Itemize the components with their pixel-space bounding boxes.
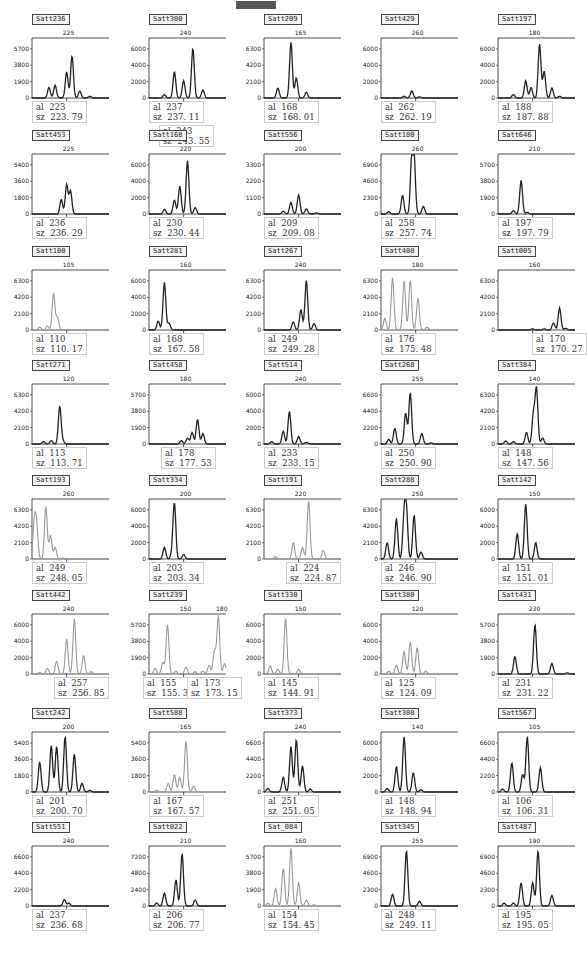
svg-text:4000: 4000 (363, 61, 378, 68)
svg-text:5700: 5700 (131, 391, 146, 398)
marker-panel: Satt2391501800190038005700al 155sz 155. … (121, 590, 231, 710)
allele-label: al 197sz 197. 79 (498, 217, 553, 239)
marker-panel: Satt2422000180036005400al 201sz 200. 70 (4, 708, 114, 828)
size-value: sz 124. 09 (385, 688, 432, 698)
size-value: sz 151. 01 (502, 573, 549, 583)
svg-text:0: 0 (25, 440, 29, 447)
svg-text:160: 160 (295, 837, 307, 844)
svg-text:240: 240 (295, 375, 307, 382)
trace-plot: 1800200040006000 (470, 24, 580, 112)
trace-line (381, 155, 458, 214)
svg-text:4000: 4000 (131, 293, 146, 300)
size-value: sz 206. 77 (153, 920, 200, 930)
size-value: sz 248. 05 (36, 573, 83, 583)
svg-text:6000: 6000 (363, 739, 378, 746)
svg-text:5700: 5700 (480, 621, 495, 628)
allele-value: al 236 (36, 218, 83, 228)
allele-label: al 201sz 200. 70 (32, 795, 87, 817)
svg-text:240: 240 (295, 261, 307, 268)
marker-panel: Satt1932600210042006300al 249sz 248. 05 (4, 475, 114, 595)
allele-label: al 178sz 177. 53 (161, 447, 216, 469)
allele-value: al 148 (385, 796, 432, 806)
svg-text:3300: 3300 (246, 161, 261, 168)
svg-text:2400: 2400 (131, 886, 146, 893)
svg-text:2100: 2100 (480, 424, 495, 431)
trace-plot: 2600210042006300 (4, 485, 114, 573)
allele-value: al 145 (268, 678, 315, 688)
svg-text:0: 0 (374, 670, 378, 677)
trace-line (381, 394, 458, 444)
allele-label: al 237sz 237. 11 (149, 101, 204, 123)
svg-text:2100: 2100 (14, 424, 29, 431)
allele-value: al 173 (191, 678, 238, 688)
svg-text:3800: 3800 (246, 869, 261, 876)
trace-plot: 2550220044006600 (353, 370, 463, 458)
marker-panel: Satt3301500200040006000al 145sz 144. 91 (236, 590, 346, 710)
svg-text:4200: 4200 (480, 407, 495, 414)
trace-line (381, 500, 458, 559)
svg-text:0: 0 (257, 94, 261, 101)
trace-line (264, 281, 341, 330)
trace-line (32, 738, 109, 792)
allele-value: al 151 (502, 563, 549, 573)
allele-value: al 188 (502, 102, 549, 112)
marker-panel: Satt4081800210042006300al 176sz 175. 48 (353, 246, 463, 366)
trace-line (32, 508, 109, 560)
allele-label: al 168sz 167. 58 (149, 333, 204, 355)
trace-plot: 2400200040006000 (4, 600, 114, 688)
svg-text:3800: 3800 (14, 61, 29, 68)
svg-text:0: 0 (257, 788, 261, 795)
trace-plot: 1650210042006300 (236, 24, 346, 112)
svg-text:150: 150 (295, 605, 307, 612)
trace-plot: 1501800190038005700 (121, 600, 231, 688)
svg-text:250: 250 (412, 490, 424, 497)
svg-text:0: 0 (25, 555, 29, 562)
svg-text:4600: 4600 (480, 869, 495, 876)
svg-text:2000: 2000 (14, 654, 29, 661)
trace-plot: 2400200040006000 (121, 24, 231, 112)
marker-panel: Satt3732400220044006600al 251sz 251. 05 (236, 708, 346, 828)
svg-text:0: 0 (142, 555, 146, 562)
trace-plot: 2200210042006300 (236, 485, 346, 573)
allele-value: al 209 (268, 218, 315, 228)
allele-label: al 106sz 106. 31 (498, 795, 553, 817)
svg-text:0: 0 (491, 94, 495, 101)
allele-label: al 148sz 148. 94 (381, 795, 436, 817)
svg-text:0: 0 (491, 440, 495, 447)
trace-line (264, 42, 341, 98)
svg-text:6000: 6000 (131, 161, 146, 168)
svg-text:2200: 2200 (246, 772, 261, 779)
allele-label: al 251sz 251. 05 (264, 795, 319, 817)
svg-text:0: 0 (374, 440, 378, 447)
size-value: sz 231. 22 (502, 688, 549, 698)
allele-label: al 113sz 113. 71 (32, 447, 87, 469)
svg-text:200: 200 (180, 490, 192, 497)
marker-panel: Satt4871900230046006900al 195sz 195. 05 (470, 822, 580, 942)
svg-text:1800: 1800 (14, 194, 29, 201)
trace-line (381, 91, 458, 98)
marker-panel: Satt2882500210042006300al 246sz 246. 90 (353, 475, 463, 595)
allele-value: al 250 (385, 448, 432, 458)
allele-label: al 236sz 236. 29 (32, 217, 87, 239)
svg-text:2100: 2100 (363, 310, 378, 317)
size-value: sz 200. 70 (36, 806, 83, 816)
svg-text:1900: 1900 (14, 78, 29, 85)
svg-text:7200: 7200 (131, 853, 146, 860)
trace-plot: 1500200040006000 (470, 485, 580, 573)
svg-text:0: 0 (25, 902, 29, 909)
svg-text:4000: 4000 (363, 637, 378, 644)
allele-label: al 230sz 230. 44 (149, 217, 204, 239)
svg-text:240: 240 (63, 605, 75, 612)
allele-label: al 206sz 206. 77 (149, 909, 204, 931)
svg-text:4800: 4800 (131, 869, 146, 876)
allele-value: al 248 (385, 910, 432, 920)
allele-label: al 262sz 262. 19 (381, 101, 436, 123)
svg-text:4600: 4600 (363, 177, 378, 184)
svg-text:6300: 6300 (246, 45, 261, 52)
allele-label: al 209sz 209. 08 (264, 217, 319, 239)
marker-panel: Satt5142400200040006000al 233sz 233. 15 (236, 360, 346, 480)
trace-plot: 2200200040006000 (121, 140, 231, 228)
svg-text:0: 0 (25, 670, 29, 677)
svg-text:120: 120 (412, 605, 424, 612)
marker-panel: Satt4581800190038005700al 178sz 177. 53 (121, 360, 231, 480)
